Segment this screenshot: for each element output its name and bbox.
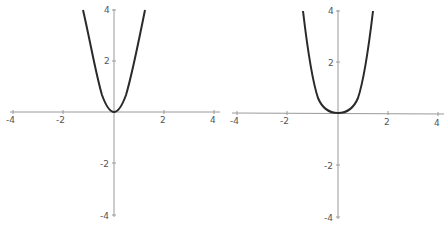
plot-left-canvas: -4 -2 2 4 4 2 -2 -4 <box>0 0 224 229</box>
plot-right-canvas: -4 -2 2 4 4 2 -2 -4 <box>224 0 448 229</box>
y-tick-label: -4 <box>100 211 109 221</box>
x-tick-label: 4 <box>210 115 216 125</box>
plot-right: -4 -2 2 4 4 2 -2 -4 <box>224 0 448 229</box>
y-tick-label: 2 <box>328 58 334 68</box>
x-tick-label: -4 <box>230 116 239 126</box>
y-tick-label: 2 <box>104 56 110 66</box>
plot-left: -4 -2 2 4 4 2 -2 -4 <box>0 0 224 229</box>
y-tick-label: -2 <box>100 159 109 169</box>
x-tick-label: -4 <box>6 115 15 125</box>
x-tick-label: 4 <box>434 118 440 128</box>
y-tick-label: 4 <box>104 5 110 15</box>
x-tick-label: -2 <box>280 116 289 126</box>
y-tick-label: -4 <box>324 213 333 223</box>
x-tick-label: -2 <box>56 115 65 125</box>
x-tick-label: 2 <box>160 115 166 125</box>
x-tick-label: 2 <box>384 117 390 127</box>
y-tick-label: -2 <box>324 161 333 171</box>
y-tick-label: 4 <box>328 6 334 16</box>
